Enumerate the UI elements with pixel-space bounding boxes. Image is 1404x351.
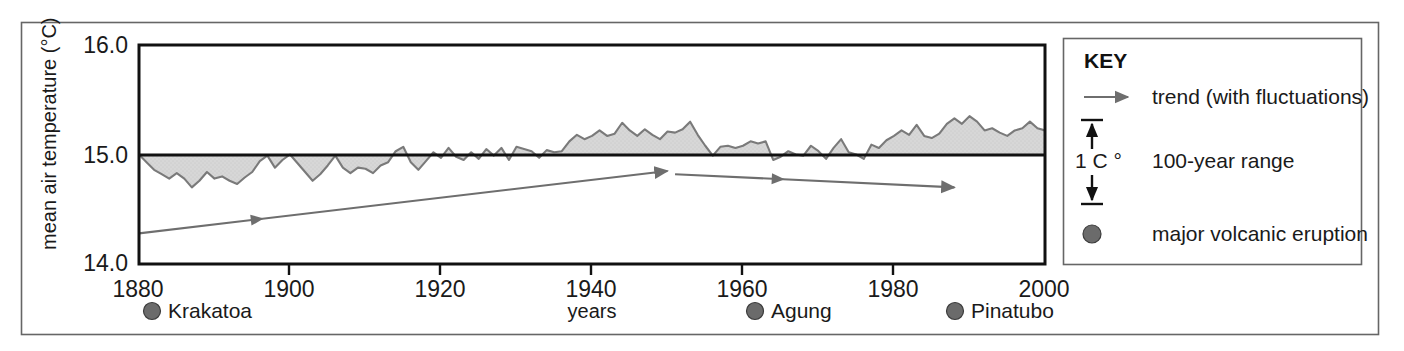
y-tick-label-16: 16.0 bbox=[83, 32, 128, 58]
volcano-label-agung: Agung bbox=[771, 299, 832, 322]
volcano-marker-agung bbox=[747, 303, 764, 320]
x-tick-label-1880: 1880 bbox=[112, 276, 163, 302]
volcano-label-pinatubo: Pinatubo bbox=[971, 299, 1054, 322]
y-tick-label-14: 14.0 bbox=[83, 250, 128, 276]
x-tick-label-1920: 1920 bbox=[414, 276, 465, 302]
x-tick-label-1940: 1940 bbox=[565, 276, 616, 302]
x-tick-label-1960: 1960 bbox=[716, 276, 767, 302]
key-item-label-range: 100-year range bbox=[1152, 149, 1294, 172]
key-item-unit-range: 1 C ° bbox=[1075, 149, 1122, 172]
x-tick-label-1980: 1980 bbox=[867, 276, 918, 302]
key-title: KEY bbox=[1084, 49, 1127, 72]
volcano-label-krakatoa: Krakatoa bbox=[168, 299, 252, 322]
x-axis-title: years bbox=[568, 300, 617, 322]
key-box: KEY trend (with fluctuations) 1 C ° 100-… bbox=[1064, 39, 1370, 265]
key-item-label-eruption: major volcanic eruption bbox=[1152, 222, 1368, 245]
climate-chart-figure: 16.0 15.0 14.0 mean air temperature (°C)… bbox=[0, 0, 1404, 351]
chart-svg: 16.0 15.0 14.0 mean air temperature (°C)… bbox=[0, 0, 1404, 351]
y-tick-label-15: 15.0 bbox=[83, 142, 128, 168]
key-item-label-trend: trend (with fluctuations) bbox=[1152, 85, 1369, 108]
volcano-marker-pinatubo bbox=[947, 303, 964, 320]
x-tick-label-1900: 1900 bbox=[263, 276, 314, 302]
filled-circle-icon bbox=[1083, 225, 1101, 243]
y-axis-title: mean air temperature (°C) bbox=[38, 17, 60, 250]
volcano-marker-krakatoa bbox=[144, 303, 161, 320]
